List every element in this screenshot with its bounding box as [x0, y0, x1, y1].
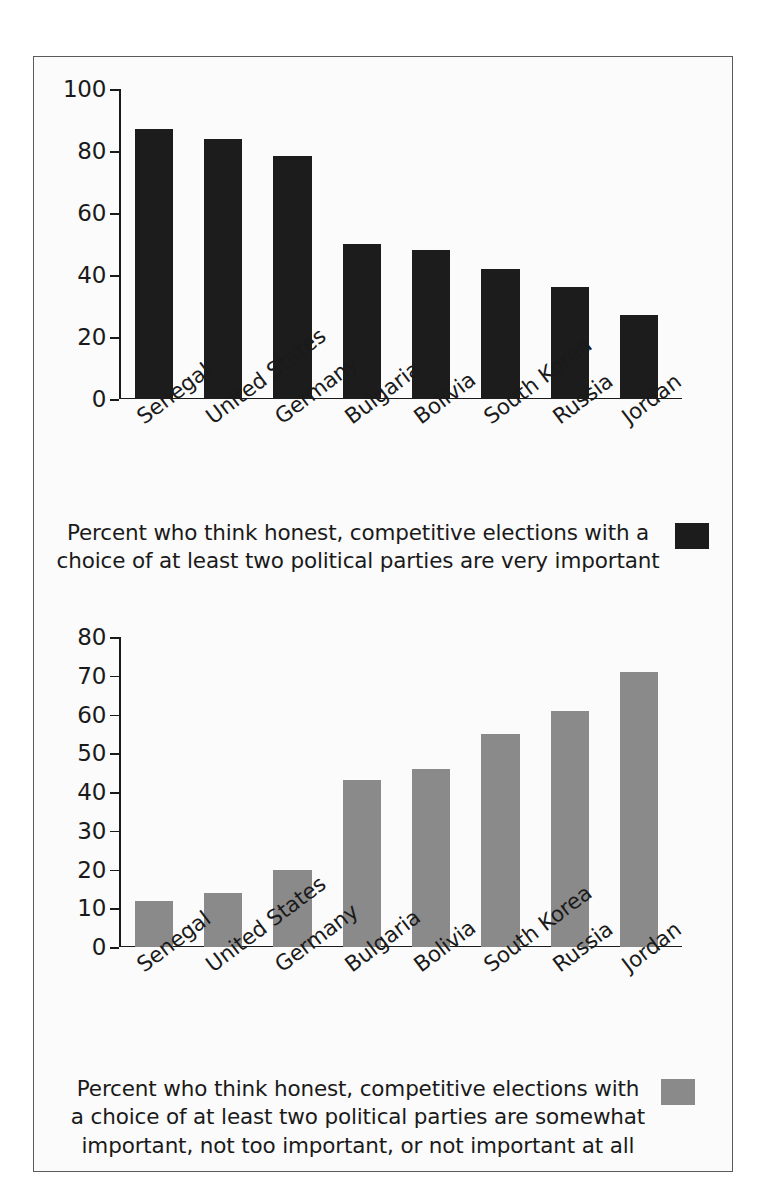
y-tick-label: 0 [92, 386, 106, 412]
bar[interactable] [620, 672, 658, 947]
y-tick-mark [110, 792, 119, 794]
top-chart-panel: 020406080100 SenegalUnited StatesGermany… [34, 57, 732, 597]
y-tick-label: 20 [77, 324, 106, 350]
y-tick-mark [110, 637, 119, 639]
y-tick-mark [110, 89, 119, 91]
y-tick-label: 20 [77, 857, 106, 883]
y-tick-mark [110, 676, 119, 678]
y-tick-mark [110, 908, 119, 910]
bar-slot [412, 637, 450, 947]
top-chart-legend: Percent who think honest, competitive el… [34, 519, 732, 576]
y-tick-mark [110, 831, 119, 833]
bottom-chart-legend-text: Percent who think honest, competitive el… [71, 1075, 645, 1160]
y-tick-mark [110, 947, 119, 949]
y-tick-label: 40 [77, 779, 106, 805]
bottom-chart-panel: 01020304050607080 SenegalUnited StatesGe… [34, 605, 732, 1173]
y-tick-mark [110, 753, 119, 755]
bar-slot [620, 637, 658, 947]
bar[interactable] [481, 734, 519, 947]
bar-slot [135, 89, 173, 399]
y-tick-mark [110, 275, 119, 277]
y-tick-label: 60 [77, 200, 106, 226]
bottom-legend-line-1: Percent who think honest, competitive el… [71, 1075, 645, 1103]
y-tick-label: 80 [77, 138, 106, 164]
y-tick-label: 10 [77, 895, 106, 921]
top-chart-legend-swatch [675, 523, 709, 549]
bar[interactable] [135, 129, 173, 399]
bar-slot [135, 637, 173, 947]
y-tick-label: 80 [77, 624, 106, 650]
bar[interactable] [481, 269, 519, 399]
y-tick-label: 0 [92, 934, 106, 960]
bar[interactable] [204, 139, 242, 399]
y-tick-label: 30 [77, 818, 106, 844]
figure-frame: 020406080100 SenegalUnited StatesGermany… [33, 56, 733, 1172]
y-tick-label: 100 [63, 76, 106, 102]
y-tick-mark [110, 213, 119, 215]
y-tick-label: 60 [77, 702, 106, 728]
bar-slot [412, 89, 450, 399]
top-legend-line-2: choice of at least two political parties… [57, 547, 660, 575]
y-tick-mark [110, 715, 119, 717]
bar-slot [204, 637, 242, 947]
bar-slot [620, 89, 658, 399]
y-tick-label: 40 [77, 262, 106, 288]
bottom-legend-line-3: important, not too important, or not imp… [71, 1132, 645, 1160]
y-tick-label: 50 [77, 740, 106, 766]
top-legend-line-1: Percent who think honest, competitive el… [57, 519, 660, 547]
bar-slot [481, 637, 519, 947]
top-chart-legend-text: Percent who think honest, competitive el… [57, 519, 660, 576]
bottom-chart-legend: Percent who think honest, competitive el… [34, 1075, 732, 1160]
bar-slot [481, 89, 519, 399]
bottom-chart-legend-swatch [661, 1079, 695, 1105]
y-tick-mark [110, 337, 119, 339]
y-tick-label: 70 [77, 663, 106, 689]
bottom-legend-line-2: a choice of at least two political parti… [71, 1103, 645, 1131]
y-tick-mark [110, 399, 119, 401]
bar-slot [204, 89, 242, 399]
y-tick-mark [110, 870, 119, 872]
y-tick-mark [110, 151, 119, 153]
